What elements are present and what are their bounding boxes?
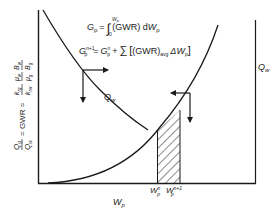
right-axis-label: Qw: [258, 62, 270, 73]
integral-upper-limit: Wp: [112, 16, 120, 23]
svg-text:krw: krw: [24, 86, 33, 95]
integral-lower-limit: 0: [109, 31, 112, 37]
svg-text:Qg: Qg: [12, 141, 22, 150]
y-axis-label: Qg Qw = GWR = krg krw μw μg Bw Bg: [12, 60, 33, 150]
hatched-area: [157, 100, 180, 184]
svg-text:Qw: Qw: [23, 140, 33, 150]
equation-cumulative-gas: Gp=∫(GWR) dWp: [87, 21, 160, 36]
svg-text:Bw: Bw: [13, 61, 22, 70]
qw-curve-label: Qw: [104, 92, 116, 103]
svg-text:= GWR =: = GWR =: [18, 102, 27, 136]
equation-incremental-gas: Gn+1p=Gnp+∑[(GWR)avgΔWp]: [79, 44, 191, 57]
tick-label-wpn: Wnp: [150, 185, 161, 197]
svg-text:μg: μg: [24, 74, 33, 82]
svg-text:μw: μw: [13, 73, 22, 82]
tick-label-wpn1: Wn+1p: [166, 185, 182, 197]
x-axis-label: Wp: [113, 197, 126, 208]
svg-text:krg: krg: [13, 87, 22, 95]
svg-text:Bg: Bg: [24, 62, 33, 70]
gwr-diagram: Gp=∫(GWR) dWp 0 Wp Gn+1p=Gnp+∑[(GWR)avgΔ…: [0, 0, 274, 209]
